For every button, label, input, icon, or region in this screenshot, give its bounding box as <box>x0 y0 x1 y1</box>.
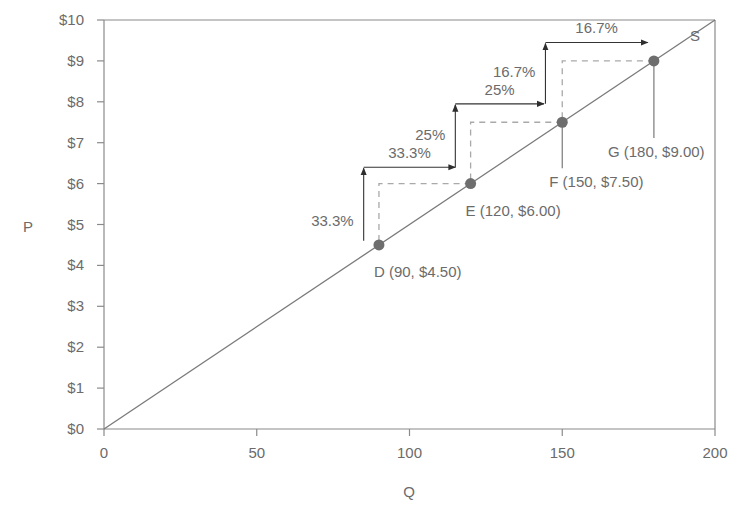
vertical-arrow-label: 25% <box>415 126 445 143</box>
y-tick-label: $10 <box>59 11 84 28</box>
y-tick-label: $9 <box>67 52 84 69</box>
horizontal-arrow-label: 16.7% <box>575 19 618 36</box>
horizontal-arrow-label: 25% <box>485 81 515 98</box>
point-label-d: D (90, $4.50) <box>374 263 462 280</box>
point-label-e: E (120, $6.00) <box>466 202 561 219</box>
supply-curve-chart: $0$1$2$3$4$5$6$7$8$9$10 050100150200 P Q… <box>0 0 749 519</box>
data-point-g <box>648 55 659 66</box>
x-axis-ticks: 050100150200 <box>100 429 728 461</box>
data-point-d <box>373 239 384 250</box>
y-tick-label: $0 <box>67 420 84 437</box>
x-tick-label: 100 <box>397 444 422 461</box>
y-tick-label: $5 <box>67 216 84 233</box>
y-axis-ticks: $0$1$2$3$4$5$6$7$8$9$10 <box>59 11 104 437</box>
y-tick-label: $8 <box>67 93 84 110</box>
data-point-e <box>465 178 476 189</box>
supply-curve-label: S <box>690 27 700 44</box>
dashed-guide <box>562 61 650 118</box>
y-tick-label: $7 <box>67 134 84 151</box>
x-tick-label: 200 <box>702 444 727 461</box>
y-axis-label: P <box>23 218 33 235</box>
y-tick-label: $2 <box>67 338 84 355</box>
dashed-guide <box>471 122 559 179</box>
point-label-g: G (180, $9.00) <box>608 143 705 160</box>
y-tick-label: $4 <box>67 256 84 273</box>
dashed-guide <box>379 184 467 241</box>
y-tick-label: $3 <box>67 297 84 314</box>
x-tick-label: 50 <box>248 444 265 461</box>
supply-curve-line <box>104 20 715 429</box>
vertical-arrow-label: 16.7% <box>493 63 536 80</box>
data-point-f <box>557 117 568 128</box>
vertical-arrow-label: 33.3% <box>311 212 354 229</box>
x-tick-label: 150 <box>550 444 575 461</box>
y-tick-label: $1 <box>67 379 84 396</box>
x-axis-label: Q <box>403 483 415 500</box>
point-label-f: F (150, $7.50) <box>549 173 643 190</box>
horizontal-arrow-label: 33.3% <box>388 144 431 161</box>
x-tick-label: 0 <box>100 444 108 461</box>
y-tick-label: $6 <box>67 175 84 192</box>
